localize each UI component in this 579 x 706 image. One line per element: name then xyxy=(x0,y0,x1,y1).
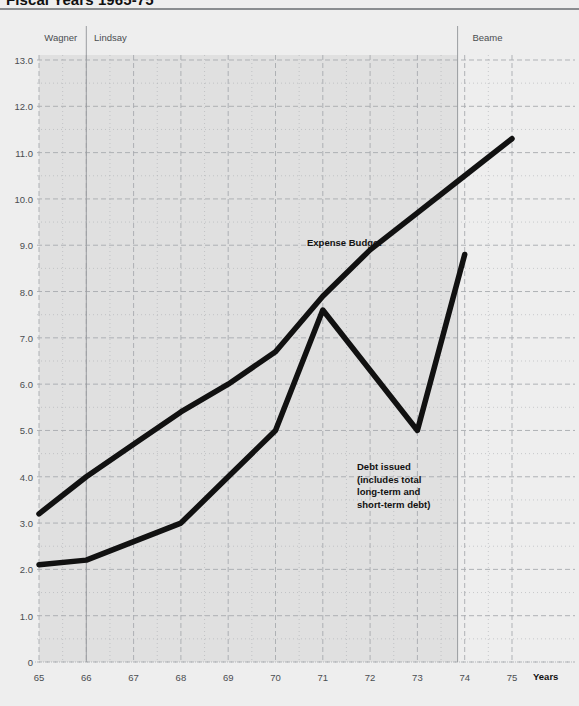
debt-issued-label: Debt issued (includes total long-term an… xyxy=(357,461,430,511)
expense-budget-label: Expense Budget xyxy=(307,237,381,250)
series-layer xyxy=(0,0,579,706)
expense-budget-line xyxy=(39,139,512,514)
chart-root: Fiscal Years 1965-75 01.02.03.04.05.06.0… xyxy=(0,0,579,706)
debt-issued-line xyxy=(39,254,465,564)
